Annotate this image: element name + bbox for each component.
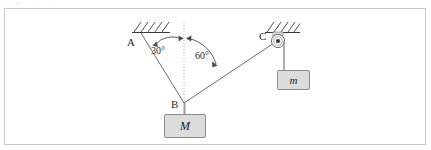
point-label-A: A	[127, 36, 135, 48]
block-M: M	[164, 114, 206, 138]
block-m: m	[277, 70, 310, 90]
physics-diagram-figure: · — · ·	[0, 0, 431, 150]
angle-label-60: 60°	[195, 50, 209, 61]
diagram-border-frame	[4, 8, 426, 145]
angle-label-30: 30°	[151, 45, 165, 56]
point-label-B: B	[171, 98, 178, 110]
point-label-C: C	[259, 30, 266, 42]
cropped-text-artifact: · — · ·	[0, 0, 431, 7]
